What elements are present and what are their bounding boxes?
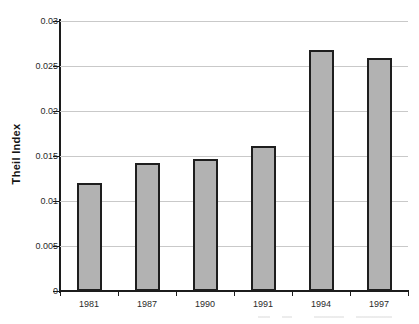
bar-chart: Theil Index 00.0050.010.0150.020.0250.03… xyxy=(0,0,419,324)
y-axis-tick-label: 0 xyxy=(10,286,58,296)
y-axis-tick-label: 0.025 xyxy=(10,61,58,71)
gridline xyxy=(60,201,408,202)
bar-1994 xyxy=(309,50,334,291)
y-axis-tick-label: 0.005 xyxy=(10,241,58,251)
gridline xyxy=(60,66,408,67)
bar-1991 xyxy=(251,146,276,291)
gridline xyxy=(60,21,408,22)
x-axis-tick-mark xyxy=(234,291,235,296)
y-axis-tick-label: 0.02 xyxy=(10,106,58,116)
x-axis-tick-mark xyxy=(60,291,61,296)
gridline xyxy=(60,111,408,112)
x-axis-tick-label: 1981 xyxy=(59,299,119,309)
y-axis-ticks: 00.0050.010.0150.020.0250.03 xyxy=(0,0,58,324)
bar-1997 xyxy=(367,58,392,291)
plot-area xyxy=(60,21,408,291)
x-axis-tick-mark xyxy=(176,291,177,296)
bar-1990 xyxy=(193,159,218,291)
gridline xyxy=(60,156,408,157)
bar-1981 xyxy=(77,183,102,291)
caption-fragment-artifact xyxy=(252,310,412,320)
y-axis-tick-label: 0.03 xyxy=(10,16,58,26)
x-axis-tick-label: 1990 xyxy=(175,299,235,309)
y-axis-tick-label: 0.01 xyxy=(10,196,58,206)
bar-1987 xyxy=(135,163,160,291)
x-axis-tick-label: 1991 xyxy=(233,299,293,309)
x-axis-tick-label: 1994 xyxy=(291,299,351,309)
x-axis-tick-mark xyxy=(408,291,409,296)
x-axis-tick-label: 1987 xyxy=(117,299,177,309)
x-axis-tick-label: 1997 xyxy=(349,299,409,309)
x-axis-tick-mark xyxy=(118,291,119,296)
x-axis-tick-mark xyxy=(350,291,351,296)
y-axis-tick-label: 0.015 xyxy=(10,151,58,161)
x-axis-tick-mark xyxy=(292,291,293,296)
gridline xyxy=(60,246,408,247)
